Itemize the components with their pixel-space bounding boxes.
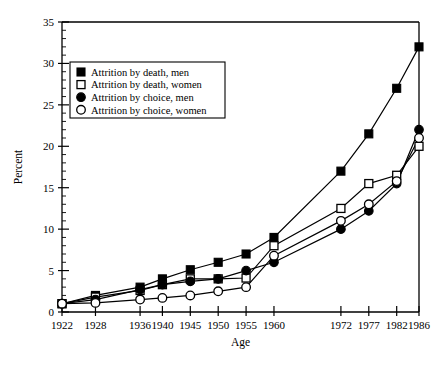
data-point-s2-1940: [158, 280, 167, 289]
x-tick-label-1955: 1955: [235, 319, 258, 331]
data-point-s3-1950: [214, 287, 223, 296]
legend-item-1[interactable]: Attrition by death, women: [77, 79, 203, 90]
legend-item-2[interactable]: Attrition by choice, men: [77, 92, 195, 103]
legend-label-2: Attrition by choice, men: [91, 92, 194, 103]
y-tick-label-30: 30: [43, 57, 55, 69]
x-tick-label-1960: 1960: [263, 319, 286, 331]
x-tick-label-1936: 1936: [129, 319, 152, 331]
data-point-s2-1972: [337, 225, 346, 234]
data-point-s0-1945: [186, 266, 194, 274]
data-point-s0-1972: [337, 167, 345, 175]
data-point-s0-1955: [242, 250, 250, 258]
legend-marker-filled-square: [77, 68, 85, 76]
data-point-s3-1955: [242, 283, 251, 292]
data-point-s2-1945: [186, 277, 195, 286]
data-point-s3-1960: [270, 251, 279, 260]
data-point-s2-1936: [136, 285, 145, 294]
y-tick-label-0: 0: [49, 306, 55, 318]
data-point-s3-1936: [136, 295, 145, 304]
x-axis-title: Age: [231, 336, 250, 349]
legend-item-3[interactable]: Attrition by choice, women: [77, 105, 208, 116]
data-point-s2-1986: [415, 125, 424, 134]
y-tick-label-10: 10: [43, 223, 55, 235]
data-point-s3-1972: [337, 217, 346, 226]
legend-label-3: Attrition by choice, women: [91, 105, 207, 116]
x-tick-label-1977: 1977: [358, 319, 381, 331]
data-point-s0-1950: [214, 258, 222, 266]
x-tick-label-1986: 1986: [408, 319, 431, 331]
legend-marker-filled-circle: [77, 93, 86, 102]
data-point-s3-1986: [415, 134, 424, 143]
data-point-s0-1960: [270, 233, 278, 241]
data-point-s3-1945: [186, 291, 195, 300]
attrition-line-chart: 05101520253035 1922192819361940194519501…: [0, 0, 439, 369]
data-point-s1-1960: [270, 242, 278, 250]
x-tick-label-1945: 1945: [179, 319, 202, 331]
x-tick-label-1972: 1972: [330, 319, 352, 331]
chart-container: 05101520253035 1922192819361940194519501…: [0, 0, 439, 369]
data-point-s2-1950: [214, 275, 223, 284]
legend-label-0: Attrition by death, men: [91, 67, 190, 78]
data-point-s3-1922: [58, 299, 67, 308]
legend-item-0[interactable]: Attrition by death, men: [77, 67, 190, 78]
x-tick-label-1928: 1928: [84, 319, 107, 331]
chart-legend: Attrition by death, menAttrition by deat…: [70, 62, 225, 118]
legend-marker-open-circle: [77, 106, 86, 115]
data-point-s1-1986: [415, 142, 423, 150]
data-point-s3-1977: [365, 200, 374, 209]
data-point-s3-1982: [392, 177, 401, 186]
data-point-s0-1986: [415, 43, 423, 51]
x-tick-label-1950: 1950: [207, 319, 230, 331]
x-tick-label-1940: 1940: [151, 319, 174, 331]
data-point-s1-1977: [365, 180, 373, 188]
y-tick-label-5: 5: [49, 265, 55, 277]
x-tick-label-1982: 1982: [386, 319, 408, 331]
y-tick-label-35: 35: [43, 16, 55, 28]
data-point-s2-1955: [242, 266, 251, 275]
y-tick-label-25: 25: [43, 99, 55, 111]
y-axis-title: Percent: [12, 149, 24, 184]
legend-label-1: Attrition by death, women: [91, 79, 203, 90]
y-tick-label-20: 20: [43, 140, 55, 152]
data-point-s0-1977: [365, 130, 373, 138]
data-point-s3-1928: [91, 299, 100, 308]
data-point-s3-1940: [158, 294, 167, 303]
x-tick-label-1922: 1922: [51, 319, 73, 331]
y-tick-label-15: 15: [43, 182, 55, 194]
legend-marker-open-square: [77, 81, 85, 89]
data-point-s1-1972: [337, 204, 345, 212]
data-point-s0-1982: [393, 84, 401, 92]
